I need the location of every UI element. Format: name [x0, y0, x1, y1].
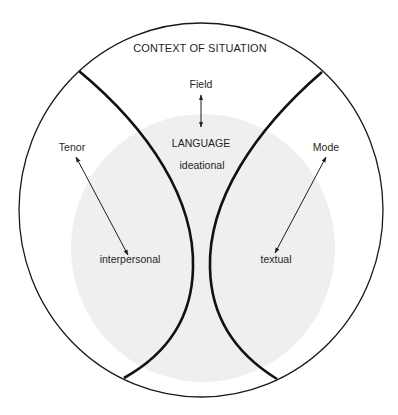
- label-mode: Mode: [313, 141, 339, 153]
- label-interpersonal: interpersonal: [100, 253, 161, 265]
- context-of-situation-diagram: CONTEXT OF SITUATION Field LANGUAGE idea…: [0, 0, 398, 415]
- label-field: Field: [190, 78, 213, 90]
- label-tenor: Tenor: [59, 141, 86, 153]
- title-context-of-situation: CONTEXT OF SITUATION: [133, 42, 267, 54]
- label-textual: textual: [261, 253, 292, 265]
- label-ideational: ideational: [180, 159, 225, 171]
- language-region: [71, 114, 335, 382]
- label-language: LANGUAGE: [172, 137, 230, 149]
